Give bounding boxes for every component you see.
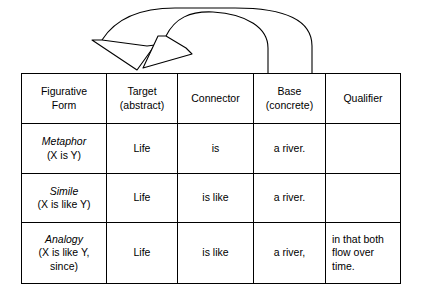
base-to-target-arrow	[143, 12, 268, 73]
qualifier-line-1: in that both	[332, 233, 396, 246]
form-pattern-analogy-line2: since)	[26, 260, 102, 273]
header-cell-qualifier: Qualifier	[326, 74, 401, 124]
form-pattern-analogy-line1: (X is like Y,	[26, 246, 102, 259]
header-target-line1: Target	[111, 85, 173, 98]
header-cell-form: Figurative Form	[22, 74, 107, 124]
cell-qualifier-analogy: in that both flow over time.	[326, 223, 401, 284]
figurative-form-table: Figurative Form Target (abstract) Connec…	[21, 73, 401, 284]
header-cell-base: Base (concrete)	[254, 74, 326, 124]
form-pattern-simile: (X is like Y)	[26, 198, 102, 211]
table-row: Metaphor (X is Y) Life is a river.	[22, 124, 401, 174]
header-qualifier-line1: Qualifier	[330, 92, 396, 105]
cell-qualifier-simile	[326, 174, 401, 223]
cell-connector-simile: is like	[178, 174, 254, 223]
cell-connector-metaphor: is	[178, 124, 254, 174]
cell-qualifier-metaphor	[326, 124, 401, 174]
form-name-metaphor: Metaphor	[26, 135, 102, 148]
cell-base-simile: a river.	[254, 174, 326, 223]
header-target-line2: (abstract)	[111, 99, 173, 112]
cell-target-analogy: Life	[107, 223, 178, 284]
qualifier-to-target-arrow	[92, 8, 312, 73]
header-cell-connector: Connector	[178, 74, 254, 124]
figurative-language-diagram: Figurative Form Target (abstract) Connec…	[0, 0, 421, 290]
form-name-analogy: Analogy	[26, 233, 102, 246]
header-base-line1: Base	[258, 85, 321, 98]
cell-base-analogy: a river,	[254, 223, 326, 284]
header-cell-target: Target (abstract)	[107, 74, 178, 124]
header-connector-line1: Connector	[182, 92, 249, 105]
table-header-row: Figurative Form Target (abstract) Connec…	[22, 74, 401, 124]
table-row: Simile (X is like Y) Life is like a rive…	[22, 174, 401, 223]
cell-form-metaphor: Metaphor (X is Y)	[22, 124, 107, 174]
table-row: Analogy (X is like Y, since) Life is lik…	[22, 223, 401, 284]
cell-connector-analogy: is like	[178, 223, 254, 284]
cell-target-metaphor: Life	[107, 124, 178, 174]
cell-form-simile: Simile (X is like Y)	[22, 174, 107, 223]
qualifier-line-2: flow over	[332, 246, 396, 259]
cell-target-simile: Life	[107, 174, 178, 223]
header-base-line2: (concrete)	[258, 99, 321, 112]
qualifier-line-3: time.	[332, 260, 396, 273]
cell-base-metaphor: a river.	[254, 124, 326, 174]
cell-form-analogy: Analogy (X is like Y, since)	[22, 223, 107, 284]
form-name-simile: Simile	[26, 185, 102, 198]
header-form-line1: Figurative	[26, 85, 102, 98]
header-form-line2: Form	[26, 99, 102, 112]
form-pattern-metaphor: (X is Y)	[26, 149, 102, 162]
